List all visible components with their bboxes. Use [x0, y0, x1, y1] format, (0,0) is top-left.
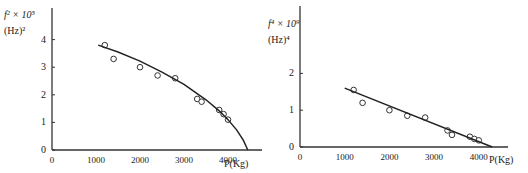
data-point-marker [360, 100, 366, 106]
x-tick-label: 0 [298, 152, 303, 162]
x-tick-label: 3000 [175, 155, 194, 165]
chart-left-panel: 0123401000200030004000f² × 10⁵(Hz)²P(Kg) [0, 0, 264, 173]
x-axis-label: P(Kg) [489, 154, 513, 166]
x-tick-label: 0 [50, 155, 55, 165]
y-tick-label: 0 [289, 141, 294, 152]
x-tick-label: 2000 [380, 152, 399, 162]
data-point-marker [387, 107, 393, 113]
data-point-marker [155, 73, 161, 79]
y-tick-label: 3 [41, 61, 46, 72]
data-point-marker [199, 99, 205, 105]
x-tick-label: 2000 [131, 155, 150, 165]
y-tick-label: 0 [41, 144, 46, 155]
fit-curve [345, 88, 493, 147]
data-point-marker [111, 56, 117, 62]
y-tick-label: 1 [41, 116, 46, 127]
y-axis-label: (Hz)² [4, 25, 25, 37]
y-tick-label: 2 [289, 67, 294, 78]
fit-curve [98, 45, 248, 150]
x-tick-label: 3000 [425, 152, 444, 162]
y-tick-label: 1 [289, 104, 294, 115]
y-axis-label: f⁴ × 10⁹ [268, 18, 300, 29]
data-point-marker [137, 64, 143, 70]
chart-right-panel: 01201000200030004000f⁴ × 10⁹(Hz)⁴P(Kg) [264, 0, 528, 173]
y-tick-label: 4 [41, 34, 46, 45]
chart-left: 0123401000200030004000f² × 10⁵(Hz)²P(Kg) [0, 0, 264, 173]
x-axis-label: P(Kg) [224, 158, 248, 170]
y-axis-label: f² × 10⁵ [4, 9, 36, 20]
chart-right: 01201000200030004000f⁴ × 10⁹(Hz)⁴P(Kg) [264, 0, 528, 173]
y-tick-label: 2 [41, 89, 46, 100]
data-point-marker [449, 132, 455, 138]
x-tick-label: 1000 [336, 152, 355, 162]
y-axis-label: (Hz)⁴ [268, 34, 290, 46]
x-tick-label: 4000 [470, 152, 489, 162]
x-tick-label: 1000 [87, 155, 106, 165]
